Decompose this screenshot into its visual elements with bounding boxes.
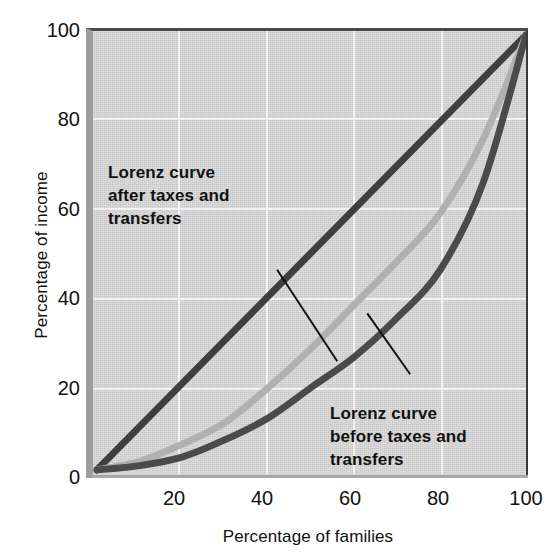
x-tick-60: 60 <box>320 488 380 508</box>
x-axis-title: Percentage of families <box>88 527 528 547</box>
y-axis-tick-labels: 100 80 60 40 20 0 <box>28 0 80 556</box>
y-tick-100: 100 <box>40 20 80 40</box>
y-tick-40: 40 <box>40 288 80 308</box>
y-tick-80: 80 <box>40 109 80 129</box>
x-axis-tick-labels: 20 40 60 80 100 <box>0 488 547 518</box>
y-tick-0: 0 <box>40 467 80 487</box>
annotation-after-line3: transfers <box>108 208 293 231</box>
annotation-after-line1: Lorenz curve <box>108 162 293 185</box>
x-tick-100: 100 <box>496 488 547 508</box>
x-tick-40: 40 <box>232 488 292 508</box>
annotation-before-line1: Lorenz curve <box>330 403 530 426</box>
annotation-after-line2: after taxes and <box>108 185 293 208</box>
annotation-before-taxes: Lorenz curve before taxes and transfers <box>330 403 530 472</box>
y-tick-20: 20 <box>40 378 80 398</box>
y-tick-60: 60 <box>40 199 80 219</box>
x-tick-20: 20 <box>144 488 204 508</box>
annotation-before-line3: transfers <box>330 449 530 472</box>
annotation-after-taxes: Lorenz curve after taxes and transfers <box>108 162 293 231</box>
lorenz-curve-chart: Percentage of income 100 80 60 40 20 0 <box>0 0 547 556</box>
annotation-before-line2: before taxes and <box>330 426 530 449</box>
plot-bottom-border <box>93 475 528 478</box>
x-tick-80: 80 <box>408 488 468 508</box>
